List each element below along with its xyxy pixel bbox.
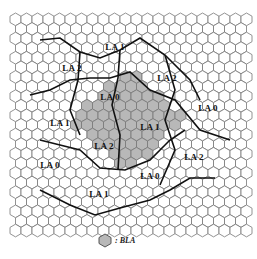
hex-grid-diagram <box>0 0 257 259</box>
la-label: LA 0 <box>198 103 218 113</box>
cell <box>87 224 98 237</box>
la-label: LA 2 <box>94 141 114 151</box>
bla-hexagon-icon <box>98 233 112 248</box>
cell <box>241 224 252 237</box>
cell <box>76 224 87 237</box>
cell <box>142 224 153 237</box>
cell <box>21 224 32 237</box>
legend-label: : BLA <box>115 236 135 245</box>
cell <box>186 224 197 237</box>
cell <box>197 224 208 237</box>
la-label: LA 0 <box>140 171 160 181</box>
cell <box>230 224 241 237</box>
la-label: LA 1 <box>89 189 109 199</box>
la-label: LA 0 <box>40 160 60 170</box>
cell <box>153 224 164 237</box>
la-label: LA 2 <box>157 73 177 83</box>
la-label: LA 2 <box>62 63 82 73</box>
la-label: LA 1 <box>50 118 70 128</box>
cell <box>43 224 54 237</box>
cell <box>32 224 43 237</box>
legend: : BLA <box>98 233 135 248</box>
la-label: LA 1 <box>140 122 160 132</box>
la-label: LA 1 <box>105 42 125 52</box>
cell <box>10 224 21 237</box>
cell <box>54 224 65 237</box>
cell <box>219 224 230 237</box>
la-label: LA 2 <box>184 152 204 162</box>
la-label: LA 0 <box>100 92 120 102</box>
cell <box>164 224 175 237</box>
cell <box>65 224 76 237</box>
cell <box>208 224 219 237</box>
cell <box>175 224 186 237</box>
